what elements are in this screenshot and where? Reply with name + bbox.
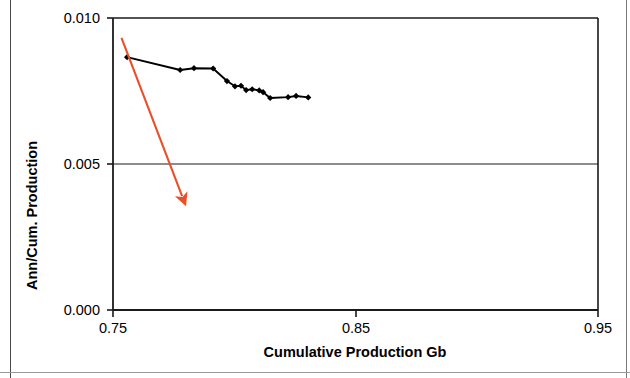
x-tick-label-0.75: 0.75 [73, 320, 153, 336]
x-tick-label-0.95: 0.95 [558, 320, 630, 336]
x-axis-title: Cumulative Production Gb [155, 344, 555, 360]
y-tick-label-0.000: 0.000 [28, 302, 100, 318]
y-axis-title: Ann/Cum. Production [24, 141, 40, 290]
y-tick-label-0.010: 0.010 [28, 10, 100, 26]
x-tick-label-0.85: 0.85 [316, 320, 396, 336]
chart-figure: 0.010 0.005 0.000 0.75 0.85 0.95 Ann/Cum… [0, 0, 630, 378]
